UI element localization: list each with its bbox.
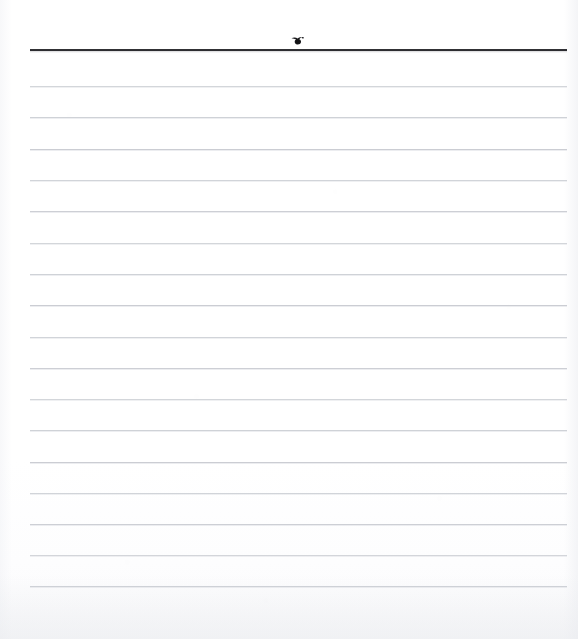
ruled-line <box>30 305 567 306</box>
ruled-line <box>30 180 567 181</box>
ruled-line <box>30 149 567 150</box>
paper-background <box>0 0 578 639</box>
ruled-line <box>30 274 567 275</box>
ruled-line <box>30 117 567 118</box>
ruled-line <box>30 586 567 587</box>
ruled-line <box>30 555 567 556</box>
scanned-page <box>0 0 578 639</box>
ruled-line <box>30 86 567 87</box>
ruled-line <box>30 399 567 400</box>
ruled-line <box>30 524 567 525</box>
ruled-line <box>30 462 567 463</box>
header-rule <box>30 49 567 51</box>
ruled-line <box>30 430 567 431</box>
ruled-line <box>30 337 567 338</box>
ruled-line <box>30 368 567 369</box>
ruled-line <box>30 493 567 494</box>
ruled-line <box>30 243 567 244</box>
ruled-line <box>30 211 567 212</box>
